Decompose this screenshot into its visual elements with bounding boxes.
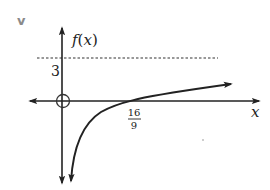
problem-label: v — [17, 13, 26, 28]
function-graph: v f(x) 3 16 9 x — [0, 0, 270, 190]
stray-dot — [202, 139, 203, 140]
function-curve — [71, 84, 231, 181]
x-intercept-denominator: 9 — [131, 120, 137, 131]
x-axis-label: x — [251, 103, 260, 121]
asymptote-value-label: 3 — [51, 63, 60, 79]
x-intercept-numerator: 16 — [128, 107, 141, 118]
y-axis-label: f(x) — [71, 31, 98, 49]
